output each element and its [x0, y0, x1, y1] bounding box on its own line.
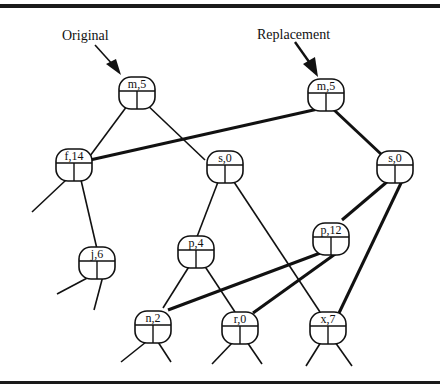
node-label: p,12 — [321, 223, 342, 237]
node-n2: n,2 — [135, 311, 171, 343]
node-replacement-p12: p,12 — [313, 223, 349, 255]
node-label: j,6 — [90, 247, 103, 261]
node-replacement-s0: s,0 — [377, 151, 413, 183]
label-replacement: Replacement — [257, 27, 330, 42]
node-label: x,7 — [321, 312, 336, 326]
original-edges — [32, 102, 352, 366]
node-original-f14: f,14 — [56, 149, 92, 181]
node-label: n,2 — [146, 311, 161, 325]
node-label: s,0 — [388, 151, 402, 165]
replacement-arrow — [295, 42, 318, 77]
node-replacement-m5: m,5 — [308, 79, 344, 111]
node-original-s0: s,0 — [207, 151, 243, 183]
node-label: f,14 — [65, 149, 84, 163]
node-label: p,4 — [189, 236, 204, 250]
replacement-edges — [90, 109, 402, 313]
original-arrow — [95, 45, 121, 75]
node-label: m,5 — [128, 77, 146, 91]
top-border — [0, 4, 440, 8]
node-label: s,0 — [218, 151, 232, 165]
bottom-border — [0, 381, 440, 384]
node-r0: r,0 — [222, 312, 258, 344]
persistent-tree-diagram: Original Replacement m,5 f,14 s,0 j,6 p,… — [0, 0, 440, 389]
node-x7: x,7 — [310, 312, 346, 344]
node-original-p4: p,4 — [178, 236, 214, 268]
node-label: m,5 — [317, 79, 335, 93]
node-label: r,0 — [234, 312, 247, 326]
node-original-j6: j,6 — [79, 247, 115, 279]
node-original-m5: m,5 — [119, 77, 155, 109]
label-original: Original — [62, 28, 109, 43]
